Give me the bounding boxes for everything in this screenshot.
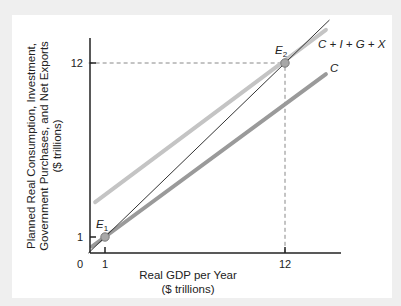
y-axis-title: Planned Real Consumption, Investment, Go… <box>25 41 63 251</box>
y-axis-title-line3: ($ trillions) <box>51 119 63 172</box>
y-tick-label: 12 <box>71 57 83 69</box>
origin-label: 0 <box>77 258 83 270</box>
consumption-label: C <box>330 62 339 74</box>
point-label-e2: E2 <box>275 44 288 59</box>
consumption-line <box>92 74 326 246</box>
equilibrium-points: E1E2 <box>96 44 289 241</box>
equilibrium-point-e2 <box>281 59 289 67</box>
forty-five-degree-line <box>89 20 330 253</box>
x-tick-label: 1 <box>102 258 108 270</box>
chart-svg: 112112 E1E2 0 C + I + G + X C Real GDP p… <box>0 0 401 306</box>
y-axis-title-line1: Planned Real Consumption, Investment, <box>25 43 37 249</box>
aggregate-expenditure-label: C + I + G + X <box>318 38 387 50</box>
equilibrium-point-e1 <box>101 233 109 241</box>
y-tick-label: 1 <box>77 231 83 243</box>
x-axis-title-line1: Real GDP per Year <box>139 269 237 281</box>
x-axis-title-line2: ($ trillions) <box>161 283 214 295</box>
x-tick-label: 12 <box>279 258 291 270</box>
series-lines <box>89 20 330 253</box>
aggregate-expenditure-line <box>95 30 326 202</box>
point-label-e1: E1 <box>96 218 109 233</box>
y-axis-title-line2: Government Purchases, and Net Exports <box>38 41 50 251</box>
